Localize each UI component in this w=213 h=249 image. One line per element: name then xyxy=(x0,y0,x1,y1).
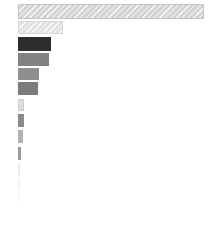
bar-2 xyxy=(18,21,63,34)
bar-9 xyxy=(18,130,23,143)
bar-13 xyxy=(18,192,20,202)
bar-1 xyxy=(18,4,204,19)
bar-4 xyxy=(18,53,49,66)
bar-5 xyxy=(18,68,39,80)
bar-11 xyxy=(18,163,20,176)
bar-10 xyxy=(18,147,21,160)
bar-chart-figure xyxy=(0,0,213,249)
bar-8 xyxy=(18,114,24,127)
bar-7 xyxy=(18,99,24,111)
bar-3 xyxy=(18,37,51,51)
plot-area xyxy=(0,0,213,249)
bar-12 xyxy=(18,178,20,190)
bar-6 xyxy=(18,82,38,95)
